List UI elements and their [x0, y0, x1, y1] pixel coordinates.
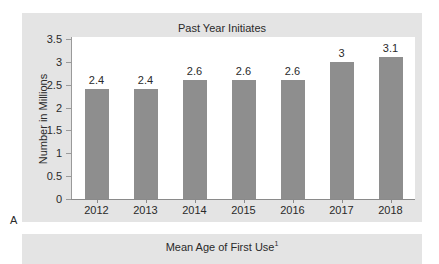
x-tick-mark — [293, 200, 294, 203]
panel-letter: A — [10, 214, 17, 226]
bar-2013 — [134, 89, 158, 199]
x-tick-label: 2014 — [173, 204, 217, 216]
chart-panel: Past Year Initiates Number in Millions 0… — [22, 13, 422, 222]
y-tick-label: 0.5 — [32, 170, 62, 182]
bar-value-label: 2.4 — [77, 74, 117, 86]
bar-2017 — [330, 62, 354, 199]
bar-2012 — [85, 89, 109, 199]
y-tick-label: 2 — [32, 102, 62, 114]
x-tick-mark — [342, 200, 343, 203]
y-tick-label: 1.5 — [32, 124, 62, 136]
x-tick-label: 2018 — [369, 204, 413, 216]
bar-2015 — [232, 80, 256, 199]
y-tick-label: 1 — [32, 147, 62, 159]
y-tick-mark — [66, 130, 71, 131]
y-tick-label: 3 — [32, 56, 62, 68]
x-tick-label: 2017 — [320, 204, 364, 216]
bar-2016 — [281, 80, 305, 199]
bar-2014 — [183, 80, 207, 199]
x-tick-label: 2012 — [75, 204, 119, 216]
next-chart-panel: Mean Age of First Use1 — [22, 234, 422, 264]
x-tick-label: 2016 — [271, 204, 315, 216]
bar-value-label: 2.6 — [175, 65, 215, 77]
x-tick-label: 2013 — [124, 204, 168, 216]
bar-value-label: 3.1 — [371, 42, 411, 54]
chart-title: Past Year Initiates — [22, 22, 422, 34]
y-tick-mark — [66, 176, 71, 177]
x-tick-mark — [391, 200, 392, 203]
y-tick-label: 3.5 — [32, 33, 62, 45]
bar-value-label: 3 — [322, 47, 362, 59]
next-chart-title: Mean Age of First Use1 — [22, 240, 422, 253]
y-tick-mark — [66, 62, 71, 63]
next-chart-title-text: Mean Age of First Use — [166, 241, 275, 253]
footnote-marker: 1 — [274, 240, 278, 247]
y-tick-mark — [66, 199, 71, 200]
y-tick-label: 2.5 — [32, 79, 62, 91]
x-tick-mark — [97, 200, 98, 203]
x-tick-mark — [195, 200, 196, 203]
bar-value-label: 2.6 — [224, 65, 264, 77]
x-tick-mark — [244, 200, 245, 203]
bar-value-label: 2.6 — [273, 65, 313, 77]
y-tick-label: 0 — [32, 193, 62, 205]
bar-value-label: 2.4 — [126, 74, 166, 86]
y-tick-mark — [66, 85, 71, 86]
bar-2018 — [379, 57, 403, 199]
x-tick-mark — [146, 200, 147, 203]
y-tick-mark — [66, 153, 71, 154]
y-axis-line — [71, 37, 72, 200]
y-tick-mark — [66, 39, 71, 40]
y-tick-mark — [66, 108, 71, 109]
x-tick-label: 2015 — [222, 204, 266, 216]
